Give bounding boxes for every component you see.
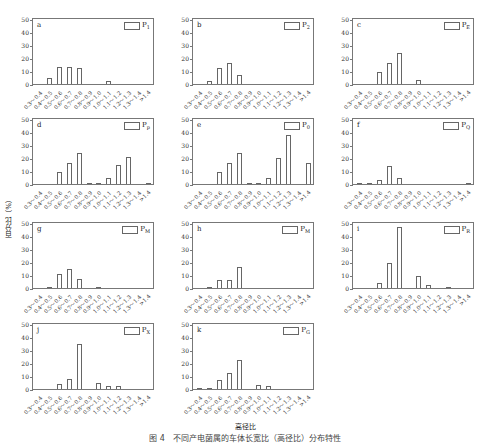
y-tick: 40 (322, 234, 349, 240)
bar (387, 63, 392, 84)
y-tick: 0 (2, 387, 29, 393)
panel-label: d (37, 121, 41, 129)
panel-label: g (37, 225, 41, 233)
legend: Pp (124, 121, 150, 130)
y-tick: 50 (162, 17, 189, 23)
legend: PM (122, 225, 150, 234)
legend-label: PE (462, 21, 470, 30)
y-tick: 10 (322, 69, 349, 75)
bar (397, 227, 402, 288)
y-tick: 40 (2, 234, 29, 240)
bar (57, 384, 62, 389)
y-tick: 0 (2, 82, 29, 88)
bar (77, 153, 82, 184)
y-tick: 10 (2, 273, 29, 279)
bar (397, 178, 402, 185)
plot-area: cPE (352, 18, 474, 85)
bar (126, 157, 131, 184)
legend-label: P2 (302, 21, 310, 30)
legend-label: P1 (142, 21, 150, 30)
bar (227, 63, 232, 84)
bar (357, 183, 362, 184)
panel-label: f (357, 121, 360, 129)
bar (77, 344, 82, 390)
legend-swatch (283, 327, 299, 335)
plot-area: jPX (32, 323, 154, 390)
y-tick: 30 (2, 143, 29, 149)
legend-swatch (124, 122, 140, 130)
bar (237, 267, 242, 288)
chart-panel-h: 01020304050hPM0.3～0.40.4～0.50.5～0.60.6～0… (162, 222, 322, 327)
plot-area: aP1 (32, 18, 154, 85)
y-tick: 40 (162, 30, 189, 36)
legend-label: PM (140, 225, 150, 234)
y-tick: 0 (2, 182, 29, 188)
bar (416, 80, 421, 84)
plot-area: dPp (32, 118, 154, 185)
y-tick: 20 (2, 156, 29, 162)
chart-panel-i: 01020304050iPR0.3～0.40.4～0.50.5～0.60.6～0… (322, 222, 482, 327)
bar (96, 183, 101, 184)
chart-panel-k: 01020304050kPG0.3～0.40.4～0.50.5～0.60.6～0… (162, 323, 322, 428)
y-tick: 40 (2, 30, 29, 36)
chart-panel-g: 01020304050gPM0.3～0.40.4～0.50.5～0.60.6～0… (2, 222, 162, 327)
y-tick: 50 (322, 221, 349, 227)
bar (207, 287, 212, 288)
y-tick: 30 (2, 43, 29, 49)
x-axis-label: 高径比 (0, 421, 490, 431)
panel-label: i (357, 225, 359, 233)
chart-panel-j: 01020304050jPX0.3～0.40.4～0.50.5～0.60.6～0… (2, 323, 162, 428)
plot-area: kPG (192, 323, 314, 390)
y-tick: 50 (322, 117, 349, 123)
bar (207, 81, 212, 84)
y-tick: 10 (2, 169, 29, 175)
legend-label: PR (462, 225, 470, 234)
chart-panel-e: 01020304050eP00.3～0.40.4～0.50.5～0.60.6～0… (162, 118, 322, 223)
bar (87, 183, 92, 184)
chart-panel-f: 01020304050fPQ0.3～0.40.4～0.50.5～0.60.6～0… (322, 118, 482, 223)
y-tick: 10 (162, 169, 189, 175)
bar (237, 360, 242, 389)
legend: P0 (284, 121, 310, 130)
y-tick: 10 (2, 69, 29, 75)
legend-label: PG (301, 326, 310, 335)
legend: PG (283, 326, 310, 335)
y-tick: 50 (2, 117, 29, 123)
bar (217, 280, 222, 288)
bar (57, 67, 62, 84)
y-tick: 40 (162, 234, 189, 240)
y-tick: 10 (162, 374, 189, 380)
y-tick: 10 (162, 69, 189, 75)
chart-panel-c: 01020304050cPE0.3～0.40.4～0.50.5～0.60.6～0… (322, 18, 482, 123)
y-tick: 20 (2, 361, 29, 367)
y-tick: 50 (322, 17, 349, 23)
y-tick: 0 (322, 286, 349, 292)
y-tick: 40 (2, 130, 29, 136)
y-tick: 0 (162, 286, 189, 292)
bar (237, 153, 242, 184)
y-tick: 30 (2, 247, 29, 253)
bar (416, 276, 421, 288)
y-tick: 0 (162, 387, 189, 393)
y-tick: 50 (162, 117, 189, 123)
bar (96, 383, 101, 390)
bar (276, 158, 281, 184)
panel-label: e (197, 121, 201, 129)
bar (106, 386, 111, 389)
y-tick: 20 (162, 361, 189, 367)
bar (227, 163, 232, 184)
legend: PE (444, 21, 470, 30)
legend-swatch (284, 22, 300, 30)
bar (67, 163, 72, 184)
y-tick: 30 (162, 247, 189, 253)
panel-label: j (37, 326, 39, 334)
y-tick: 10 (162, 273, 189, 279)
bar (256, 183, 261, 184)
bar (377, 180, 382, 184)
y-tick: 0 (322, 82, 349, 88)
bar (426, 285, 431, 288)
y-tick: 20 (162, 56, 189, 62)
bar (57, 274, 62, 288)
legend-swatch (444, 22, 460, 30)
panel-label: h (197, 225, 202, 233)
